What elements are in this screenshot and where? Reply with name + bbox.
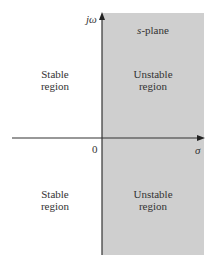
sigma-axis-label: σ: [195, 144, 200, 156]
s-plane-title: s-plane: [122, 24, 184, 36]
unstable-region-upper: Unstable region: [122, 68, 184, 92]
sigma-arrow-icon: [197, 135, 205, 141]
axes: [0, 0, 215, 265]
jw-axis-label: jω: [86, 13, 97, 25]
origin-label: 0: [92, 143, 98, 155]
unstable-region-lower: Unstable region: [122, 188, 184, 212]
stable-region-lower: Stable region: [25, 188, 85, 212]
jw-arrow-icon: [99, 12, 105, 20]
stable-region-upper: Stable region: [25, 68, 85, 92]
